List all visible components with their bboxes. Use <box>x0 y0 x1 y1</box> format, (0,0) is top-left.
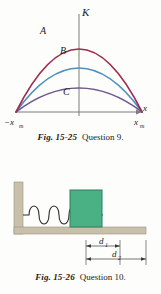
dimension-d2-subscript: 2 <box>118 255 121 261</box>
label-curve-C: C <box>63 86 70 97</box>
caption-fig-number: Fig. 15-25 <box>37 132 77 142</box>
label-x-right: x <box>133 117 138 127</box>
dimension-d2-label: d <box>112 249 117 259</box>
dimension-d2: d 2 <box>86 240 146 265</box>
figure-15-26: d 1 d 2 <box>0 168 161 272</box>
block <box>70 190 102 227</box>
label-x-axis: x <box>142 103 147 113</box>
label-x-left: −x <box>4 117 14 127</box>
dimension-d1-subscript: 1 <box>105 242 108 248</box>
wall <box>14 182 23 234</box>
caption-question-text: Question 9. <box>77 132 124 142</box>
label-x-left-subscript: m <box>19 123 24 129</box>
caption-figure-15-25: Fig. 15-25Question 9. <box>0 132 161 143</box>
caption-figure-15-26: Fig. 15-26Question 10. <box>0 272 161 283</box>
caption-fig-number-26: Fig. 15-26 <box>35 272 75 282</box>
label-K: K <box>81 6 90 18</box>
floor <box>14 227 146 234</box>
figure-15-25: K A B C x −x m x m <box>0 0 161 130</box>
textbook-figure-page: K A B C x −x m x m Fig. 15-25Question 9. <box>0 0 161 294</box>
label-curve-B: B <box>60 45 66 56</box>
label-x-right-subscript: m <box>140 123 145 129</box>
label-curve-A: A <box>39 25 47 36</box>
caption-question-text-26: Question 10. <box>75 272 126 282</box>
dimension-d1-label: d <box>99 236 104 246</box>
